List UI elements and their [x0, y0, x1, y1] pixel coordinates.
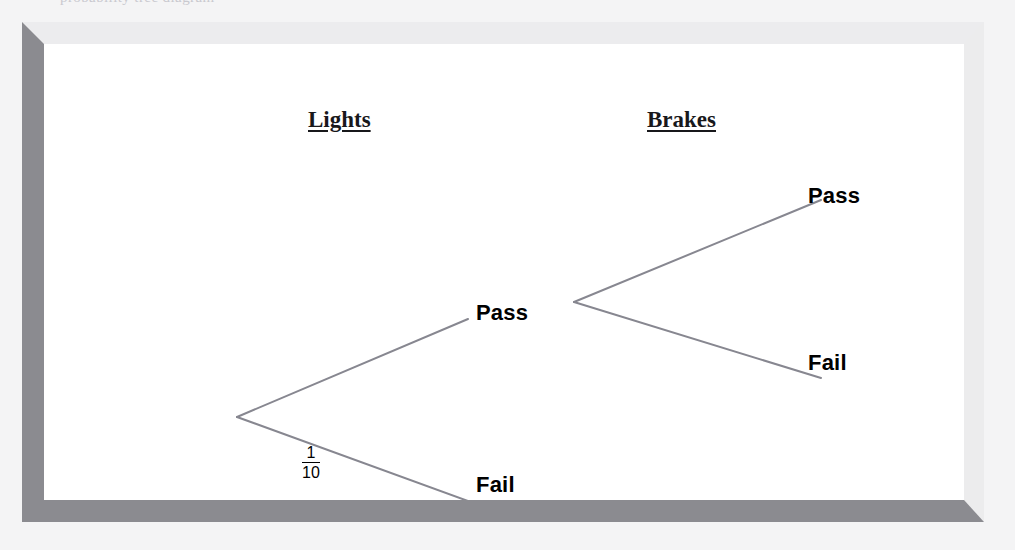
branch-root-to-lights-pass	[237, 319, 468, 417]
node-label-brakes-fail: Fail	[808, 350, 847, 376]
node-label-brakes-pass: Pass	[808, 183, 860, 209]
branch-root-to-lights-fail	[237, 417, 468, 500]
fraction-denominator: 10	[302, 463, 320, 481]
probability-tree-diagram: Lights Brakes Pass Fail Pass Fail 1 10	[44, 44, 964, 500]
top-cut-text: probability tree diagram	[60, 0, 215, 6]
frame-container: Lights Brakes Pass Fail Pass Fail 1 10	[22, 22, 984, 522]
node-label-lights-fail: Fail	[476, 472, 515, 498]
column-heading-brakes: Brakes	[647, 107, 716, 133]
branch-probability-lights-fail: 1 10	[302, 444, 320, 482]
branch-lights-pass-to-brakes-fail	[574, 302, 821, 378]
top-cut-text-strip: probability tree diagram	[0, 0, 1015, 6]
column-heading-lights: Lights	[308, 107, 371, 133]
fraction-numerator: 1	[302, 444, 320, 463]
branch-lines-group	[44, 44, 964, 500]
node-label-lights-pass: Pass	[476, 300, 528, 326]
branch-lights-pass-to-brakes-pass	[574, 200, 821, 302]
frame-interior-canvas: Lights Brakes Pass Fail Pass Fail 1 10	[44, 44, 964, 500]
